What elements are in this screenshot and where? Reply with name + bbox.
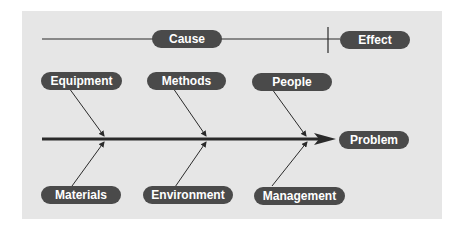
branch-equipment xyxy=(69,88,104,136)
branch-environment xyxy=(175,142,206,187)
category-methods: Methods xyxy=(147,72,226,90)
branch-people xyxy=(272,89,306,136)
category-people: People xyxy=(252,73,332,91)
effect-pill: Effect xyxy=(340,31,410,49)
cause-pill: Cause xyxy=(152,30,222,48)
branch-methods xyxy=(173,88,206,136)
branch-materials xyxy=(72,142,104,186)
category-environment: Environment xyxy=(143,186,233,204)
branch-management xyxy=(272,142,307,186)
category-materials: Materials xyxy=(41,186,121,204)
problem-pill: Problem xyxy=(339,131,409,149)
category-equipment: Equipment xyxy=(41,72,122,90)
category-management: Management xyxy=(254,187,345,205)
